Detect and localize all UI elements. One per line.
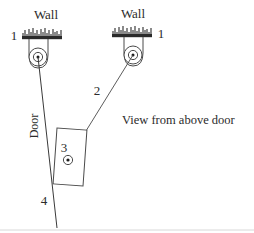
panel-number-label: 3 [61, 140, 68, 155]
wall-label-right: Wall [121, 6, 146, 21]
wall-bar-right [112, 34, 152, 37]
wall-label-left: Wall [34, 7, 59, 22]
door-text-label: Door [27, 114, 41, 139]
hinge-right-number-label: 1 [158, 26, 165, 41]
door-schematic-figure: Wall Wall 1 1 2 3 4 Door View from above… [0, 0, 254, 233]
diagram-root: Wall Wall 1 1 2 3 4 Door View from above… [0, 0, 254, 233]
link-member-number-label: 2 [94, 83, 101, 98]
figure-caption: View from above door [122, 113, 236, 127]
hinge-left-number-label: 1 [11, 28, 18, 43]
panel-pivot-dot [66, 158, 69, 161]
wall-bar-left [22, 36, 62, 39]
door-edge-number-label: 4 [41, 193, 48, 208]
